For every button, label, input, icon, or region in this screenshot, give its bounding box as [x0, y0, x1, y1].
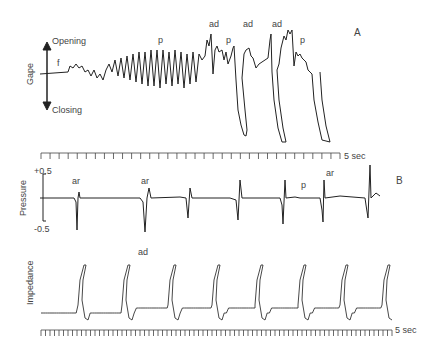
gape-arrow-icon	[43, 42, 51, 110]
annotation-ad: ad	[243, 20, 253, 29]
figure: Opening Closing Gape f p ad p ad ad p A …	[0, 0, 434, 355]
time-scale-b	[41, 330, 392, 336]
closing-label: Closing	[52, 106, 82, 115]
gape-axis-label: Gape	[26, 63, 35, 85]
annotation-f: f	[57, 59, 60, 68]
annotation-p: p	[300, 36, 305, 45]
annotation-ar: ar	[72, 177, 80, 186]
annotation-ar: ar	[326, 169, 334, 178]
annotation-ar: ar	[141, 177, 149, 186]
pressure-minus-tick: -0.5	[34, 225, 50, 234]
annotation-ad: ad	[138, 248, 148, 257]
panel-label-b: B	[396, 176, 403, 186]
gape-trace	[40, 34, 271, 136]
pressure-axis-label: Pressure	[19, 180, 28, 216]
time-scale-label-a: 5 sec	[344, 152, 366, 161]
impedance-trace	[41, 265, 392, 320]
time-scale-a	[41, 153, 340, 159]
traces-svg	[0, 0, 434, 355]
opening-label: Opening	[52, 37, 86, 46]
pressure-plus-tick: +0.5	[34, 167, 52, 176]
annotation-p: p	[226, 36, 231, 45]
annotation-ad: ad	[209, 20, 219, 29]
annotation-p: p	[158, 36, 163, 45]
impedance-axis-label: Impedance	[26, 260, 35, 305]
time-scale-label-b: 5 sec	[395, 326, 417, 335]
annotation-p: p	[301, 181, 306, 190]
panel-label-a: A	[354, 28, 361, 38]
annotation-ad: ad	[272, 20, 282, 29]
